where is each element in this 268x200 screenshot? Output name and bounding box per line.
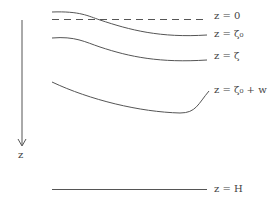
zeta0-curve [52, 12, 207, 36]
label-zeta0w: z = ζ₀ + w [214, 84, 267, 95]
axis-label-z: z [18, 149, 23, 160]
label-z0: z = 0 [214, 10, 240, 21]
label-H: z = H [214, 183, 243, 194]
zeta0w-curve [52, 82, 209, 113]
label-zeta: z = ζ [214, 50, 239, 61]
zeta-curve [52, 38, 207, 61]
label-zeta0: z = ζ₀ [214, 28, 243, 39]
